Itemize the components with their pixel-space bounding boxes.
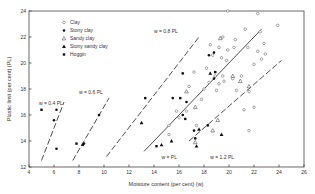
data-point xyxy=(197,127,201,130)
data-point xyxy=(246,46,249,49)
data-point xyxy=(240,75,243,78)
reference-line-label: w = 0.4 PL xyxy=(39,100,63,106)
data-point xyxy=(98,114,101,117)
data-point xyxy=(160,143,164,146)
data-point xyxy=(225,59,228,62)
data-point xyxy=(203,88,206,91)
data-point xyxy=(216,118,220,121)
y-tick-label: 12 xyxy=(20,164,26,170)
y-tick-label: 22 xyxy=(20,34,26,40)
data-point xyxy=(184,118,186,120)
data-point xyxy=(220,57,223,60)
y-tick-label: 24 xyxy=(20,8,26,14)
data-point xyxy=(175,110,178,113)
data-point xyxy=(55,148,58,151)
x-tick-label: 10 xyxy=(101,169,107,175)
data-point xyxy=(211,54,214,57)
reference-line-label: w = PL xyxy=(162,154,178,160)
data-point xyxy=(168,124,171,127)
data-point xyxy=(193,129,196,132)
y-axis-label: Plastic limit (per cent) (PL) xyxy=(6,57,12,122)
data-point xyxy=(264,53,267,56)
data-point xyxy=(200,98,203,101)
data-point xyxy=(247,84,251,87)
data-point xyxy=(195,144,199,147)
reference-line-label: w = 1.2 PL xyxy=(210,154,234,160)
data-point xyxy=(168,133,171,136)
data-point xyxy=(181,114,184,117)
data-point xyxy=(193,71,196,74)
x-axis-label: Moisture content (per cent) (w) xyxy=(129,181,204,187)
x-tick-label: 16 xyxy=(176,169,182,175)
data-point xyxy=(188,85,191,88)
x-tick-label: 24 xyxy=(276,169,282,175)
data-point xyxy=(194,137,197,140)
data-point xyxy=(179,97,181,99)
y-tick-label: 16 xyxy=(20,112,26,118)
data-point xyxy=(243,109,246,112)
data-point xyxy=(55,109,58,112)
data-point xyxy=(193,105,197,108)
data-point xyxy=(205,67,208,70)
reference-line-label: w = 0.8 PL xyxy=(154,28,178,34)
data-point xyxy=(223,80,226,83)
data-point xyxy=(144,97,146,99)
legend: ClayStony claySandy clayStony sandy clay… xyxy=(62,19,108,57)
legend-marker xyxy=(63,53,65,55)
reference-line xyxy=(144,29,262,151)
data-point xyxy=(171,97,174,100)
data-point xyxy=(231,74,235,77)
data-point xyxy=(221,36,224,39)
x-tick-label: 8 xyxy=(78,169,81,175)
legend-marker xyxy=(62,45,66,48)
data-point xyxy=(214,75,217,78)
data-point xyxy=(226,49,229,52)
legend-marker xyxy=(63,21,66,24)
legend-label: Stony sandy clay xyxy=(70,43,108,49)
y-tick-label: 18 xyxy=(20,86,26,92)
legend-marker xyxy=(63,29,66,32)
data-point xyxy=(208,54,211,57)
data-point xyxy=(253,63,256,66)
data-point xyxy=(193,140,197,143)
reference-line xyxy=(73,98,109,160)
data-point xyxy=(260,58,263,61)
x-tick-label: 18 xyxy=(201,169,207,175)
data-point xyxy=(209,44,212,47)
x-tick-label: 22 xyxy=(251,169,257,175)
data-point xyxy=(206,124,209,127)
x-tick-label: 6 xyxy=(53,169,56,175)
reference-line xyxy=(189,60,282,141)
data-point xyxy=(140,121,144,124)
x-tick-label: 4 xyxy=(28,169,31,175)
data-point xyxy=(208,71,212,74)
legend-label: Clay xyxy=(70,19,81,25)
y-tick-label: 14 xyxy=(20,138,26,144)
y-tick-label: 20 xyxy=(20,60,26,66)
data-point xyxy=(218,83,221,86)
legend-label: Sandy clay xyxy=(70,35,95,41)
data-point xyxy=(214,71,216,73)
data-point xyxy=(244,28,247,31)
legend-label: Stony clay xyxy=(70,27,94,33)
data-point xyxy=(233,46,236,49)
data-point xyxy=(170,139,174,142)
data-point xyxy=(248,129,251,132)
data-point xyxy=(82,144,84,146)
data-point xyxy=(221,75,224,78)
data-point xyxy=(248,90,251,93)
data-point xyxy=(256,12,259,15)
x-tick-label: 12 xyxy=(126,169,132,175)
data-point xyxy=(211,129,215,132)
data-point xyxy=(220,133,224,136)
data-point xyxy=(75,142,77,144)
data-point xyxy=(238,79,242,82)
data-point xyxy=(256,50,259,53)
data-point xyxy=(235,89,238,92)
data-point xyxy=(40,109,42,111)
data-point xyxy=(259,31,262,34)
data-point xyxy=(215,89,218,92)
x-tick-label: 14 xyxy=(151,169,157,175)
data-point xyxy=(155,145,157,147)
line-labels: w = 0.4 PLw = 0.6 PLw = 0.8 PLw = PLw = … xyxy=(39,28,234,160)
